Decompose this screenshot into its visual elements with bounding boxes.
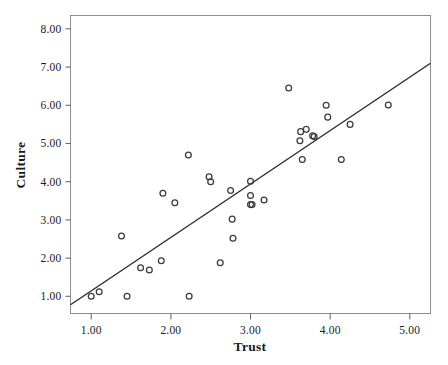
data-point (299, 157, 305, 163)
y-tick-label: 2.00 (41, 252, 62, 264)
data-point (338, 157, 344, 163)
data-point (88, 293, 94, 299)
y-tick-label: 5.00 (41, 137, 62, 149)
data-point (303, 126, 309, 132)
data-point (323, 102, 329, 108)
x-tick-label: 5.00 (399, 324, 420, 336)
data-points (88, 85, 391, 299)
data-point (138, 265, 144, 271)
y-axis-title: Culture (13, 142, 28, 189)
y-axis-ticks (66, 29, 71, 296)
data-point (96, 289, 102, 295)
data-point (119, 233, 125, 239)
data-point (248, 193, 254, 199)
data-point (172, 200, 178, 206)
y-tick-label: 6.00 (41, 99, 62, 111)
data-point (217, 260, 223, 266)
y-tick-label: 4.00 (41, 176, 62, 188)
data-point (146, 267, 152, 273)
y-tick-label: 8.00 (41, 23, 62, 35)
data-point (160, 190, 166, 196)
x-axis-ticks (91, 314, 410, 320)
data-point (124, 293, 130, 299)
x-tick-label: 1.00 (81, 324, 102, 336)
data-point (347, 121, 353, 127)
data-point (297, 138, 303, 144)
data-point (261, 197, 267, 203)
chart-canvas: 1.002.003.004.005.006.007.008.00 1.002.0… (0, 0, 448, 365)
data-point (229, 216, 235, 222)
data-point (385, 102, 391, 108)
data-point (228, 188, 234, 194)
x-axis-tick-labels: 1.002.003.004.005.00 (81, 324, 421, 336)
data-point (158, 258, 164, 264)
data-point (286, 85, 292, 91)
data-point (186, 293, 192, 299)
y-tick-label: 7.00 (41, 61, 62, 73)
y-tick-label: 1.00 (41, 290, 62, 302)
x-tick-label: 3.00 (240, 324, 261, 336)
x-tick-label: 2.00 (160, 324, 181, 336)
x-axis-title: Trust (234, 339, 267, 354)
scatter-plot-figure: 1.002.003.004.005.006.007.008.00 1.002.0… (0, 0, 448, 365)
x-tick-label: 4.00 (320, 324, 341, 336)
y-axis-tick-labels: 1.002.003.004.005.006.007.008.00 (41, 23, 62, 302)
y-tick-label: 3.00 (41, 214, 62, 226)
data-point (185, 152, 191, 158)
data-point (230, 235, 236, 241)
data-point (325, 114, 331, 120)
data-point (298, 129, 304, 135)
